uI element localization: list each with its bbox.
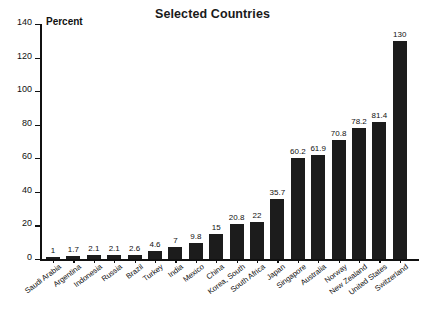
bar[interactable]: 7 <box>168 24 182 259</box>
bar[interactable]: 1.7 <box>66 24 80 259</box>
bar-rect <box>393 41 407 259</box>
bar-value-label: 1 <box>51 246 55 255</box>
bar-value-label: 20.8 <box>229 213 245 222</box>
bar-value-label: 78.2 <box>351 117 367 126</box>
bar-value-label: 2.1 <box>88 244 99 253</box>
bar-rect <box>168 247 182 259</box>
bar[interactable]: 4.6 <box>148 24 162 259</box>
x-axis-line <box>40 259 419 261</box>
bar-rect <box>372 122 386 259</box>
bar-rect <box>209 234 223 259</box>
x-axis-category-labels: Saudi ArabiaArgentinaIndonesiaRussiaBraz… <box>40 263 425 317</box>
y-axis-tick-label: 40 <box>22 185 32 195</box>
y-axis-tick-label: 120 <box>17 51 32 61</box>
bar-rect <box>250 222 264 259</box>
bar[interactable]: 81.4 <box>372 24 386 259</box>
bar-value-label: 7 <box>173 236 177 245</box>
plot-area: Percent 020406080100120140 11.72.12.12.6… <box>40 24 419 259</box>
y-axis-tick-label: 20 <box>22 218 32 228</box>
y-axis-tick-label: 60 <box>22 151 32 161</box>
bar-value-label: 35.7 <box>270 188 286 197</box>
bar[interactable]: 70.8 <box>332 24 346 259</box>
bar-rect <box>352 128 366 259</box>
bar[interactable]: 60.2 <box>291 24 305 259</box>
bar[interactable]: 15 <box>209 24 223 259</box>
bar[interactable]: 1 <box>46 24 60 259</box>
bar-rect <box>230 224 244 259</box>
bar-value-label: 2.6 <box>129 244 140 253</box>
bar-value-label: 9.8 <box>190 232 201 241</box>
y-axis-tick-label: 140 <box>17 17 32 27</box>
bar-chart: Selected Countries Percent 0204060801001… <box>0 0 425 317</box>
y-axis-tick-mark <box>35 259 40 260</box>
bar-value-label: 61.9 <box>310 144 326 153</box>
bars-layer: 11.72.12.12.64.679.81520.82235.760.261.9… <box>40 24 419 259</box>
bar-value-label: 70.8 <box>331 129 347 138</box>
bar-value-label: 15 <box>212 223 221 232</box>
bar-value-label: 130 <box>393 30 406 39</box>
bar-rect <box>189 243 203 259</box>
bar[interactable]: 22 <box>250 24 264 259</box>
bar-value-label: 4.6 <box>149 240 160 249</box>
y-axis-tick-label: 80 <box>22 118 32 128</box>
bar-rect <box>332 140 346 259</box>
bar[interactable]: 2.1 <box>87 24 101 259</box>
bar-value-label: 22 <box>253 211 262 220</box>
bar[interactable]: 35.7 <box>270 24 284 259</box>
bar[interactable]: 20.8 <box>230 24 244 259</box>
bar[interactable]: 9.8 <box>189 24 203 259</box>
bar[interactable]: 61.9 <box>311 24 325 259</box>
bar[interactable]: 78.2 <box>352 24 366 259</box>
bar-value-label: 1.7 <box>68 245 79 254</box>
bar-rect <box>311 155 325 259</box>
bar-value-label: 81.4 <box>372 111 388 120</box>
y-axis-tick-label: 100 <box>17 84 32 94</box>
bar[interactable]: 2.6 <box>128 24 142 259</box>
bar[interactable]: 130 <box>393 24 407 259</box>
bar-rect <box>270 199 284 259</box>
y-axis-tick-label: 0 <box>27 252 32 262</box>
bar[interactable]: 2.1 <box>107 24 121 259</box>
bar-value-label: 2.1 <box>109 244 120 253</box>
bar-value-label: 60.2 <box>290 147 306 156</box>
bar-rect <box>291 158 305 259</box>
bar-rect <box>148 251 162 259</box>
